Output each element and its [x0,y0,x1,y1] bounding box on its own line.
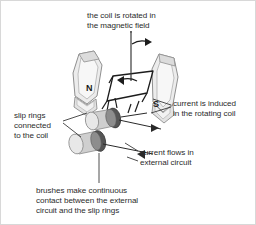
label-current-induced-line1: current is induced [173,99,236,108]
diagram-page: the coil is rotated inthe magnetic field… [0,0,256,225]
label-brushes-line3: circuit and the slip rings [36,206,119,215]
label-current-induced-line2: in the rotating coil [173,109,235,118]
rotation-arrow-top [132,38,152,46]
label-brushes-line1: brushes make continuous [36,186,127,195]
label-pole-north: N [86,83,93,93]
label-brushes: brushes make continuouscontact between t… [36,186,138,217]
label-coil-rotated-line2: the magnetic field [87,21,150,30]
label-current-flows-line2: external circuit [140,158,191,167]
label-slip-rings-line3: to the coil [14,131,48,140]
rotation-arrow-coil [117,76,137,85]
label-coil-rotated-line1: the coil is rotated in [87,11,156,20]
label-slip-rings: slip ringsconnectedto the coil [14,111,51,142]
label-brushes-line2: contact between the external [36,196,138,205]
label-coil-rotated: the coil is rotated inthe magnetic field [87,11,156,31]
label-slip-rings-line2: connected [14,121,51,130]
label-slip-rings-line1: slip rings [14,111,45,120]
label-current-induced: current is inducedin the rotating coil [173,99,236,119]
label-pole-south: S [153,99,159,109]
label-current-flows: current flows inexternal circuit [140,148,194,168]
rotating-coil [102,71,153,109]
slip-ring-lower [67,129,107,155]
label-current-flows-line1: current flows in [140,148,194,157]
